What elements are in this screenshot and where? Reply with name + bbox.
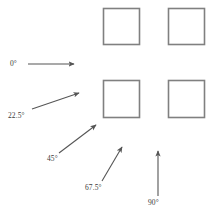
square-bottom-left <box>104 81 140 118</box>
square-bottom-right <box>169 81 205 118</box>
angle-label-0: 0° <box>10 60 17 68</box>
angle-label-22-5: 22.5° <box>8 112 25 120</box>
angle-label-45: 45° <box>47 155 58 163</box>
figure-canvas: 0° 22.5° 45° 67.5° 90° <box>0 0 217 219</box>
squares-group <box>104 9 205 118</box>
square-top-right <box>169 9 205 45</box>
angle-label-90: 90° <box>148 199 159 207</box>
arrow-67-5-line <box>102 147 122 181</box>
diagram-svg <box>0 0 217 219</box>
arrow-22-5-line <box>32 93 79 109</box>
square-top-left <box>104 9 140 45</box>
angle-label-67-5: 67.5° <box>85 184 102 192</box>
arrow-45-line <box>59 125 96 153</box>
